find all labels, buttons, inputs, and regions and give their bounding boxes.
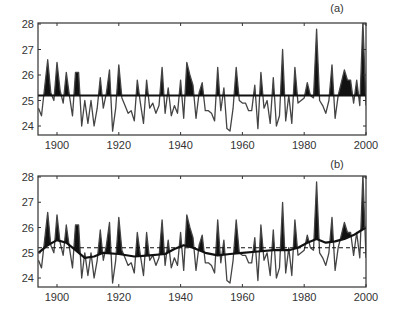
y-tick-label: 28 [22,171,34,183]
x-tick-label: 2000 [354,291,378,303]
y-tick-label: 24 [22,120,34,132]
y-tick-label: 26 [22,69,34,81]
x-tick-label: 1980 [292,291,316,303]
x-tick-label: 1960 [230,291,254,303]
x-tick-label: 1940 [168,139,192,151]
x-tick-label: 1960 [230,139,254,151]
x-tick-label: 1980 [292,139,316,151]
y-tick-label: 27 [22,44,34,56]
panel-label-b: (b) [330,158,343,170]
x-tick-label: 1900 [45,139,69,151]
x-tick-label: 1920 [107,291,131,303]
x-tick-label: 1940 [168,291,192,303]
y-tick-label: 25 [22,247,34,259]
x-tick-label: 1900 [45,291,69,303]
x-tick-label: 2000 [354,139,378,151]
plot-area [38,21,366,131]
x-tick-label: 1920 [107,139,131,151]
panel-label-a: (a) [330,2,343,14]
y-tick-label: 24 [22,272,34,284]
figure: (a) 2425262728190019201940196019802000 (… [0,0,395,314]
y-tick-label: 25 [22,95,34,107]
chart-panel-b: 2425262728190019201940196019802000 [22,171,378,303]
plot-area [38,175,366,284]
y-tick-label: 27 [22,196,34,208]
chart-panel-a: 2425262728190019201940196019802000 [22,18,378,151]
y-tick-label: 28 [22,18,34,30]
y-tick-label: 26 [22,222,34,234]
